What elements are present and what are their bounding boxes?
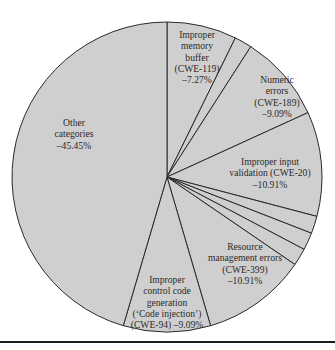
slice-label-line: categories xyxy=(55,128,94,139)
slice-label-line: (CWE-189) xyxy=(254,97,299,109)
slice-label-line: Improper xyxy=(179,29,216,40)
slice-label-line: management errors xyxy=(208,252,282,263)
slice-label-line: –7.27% xyxy=(181,74,212,85)
slice-label-line: generation xyxy=(147,297,188,308)
slice-label-line: errors xyxy=(266,85,289,96)
slice-label-line: –10.91% xyxy=(227,275,262,286)
slice-label-line: –10.91% xyxy=(252,179,287,190)
slice-label-line: memory xyxy=(181,40,213,51)
slice-label-line: buffer xyxy=(185,52,209,63)
pie-chart: Impropermemorybuffer(CWE-119)–7.27%Numer… xyxy=(0,0,335,350)
slice-label-line: Improper xyxy=(149,274,186,285)
slice-label-line: (CWE-399) xyxy=(222,264,267,276)
slice-label-line: –9.09% xyxy=(261,108,292,119)
slice-label-line: (‘Code injection’) xyxy=(133,308,202,320)
slice-label-line: validation (CWE-20) xyxy=(229,167,310,179)
slice-label-line: (CWE-119) xyxy=(175,63,220,75)
slice-label-line: Improper input xyxy=(241,156,299,167)
slice-label-line: Other xyxy=(63,117,86,128)
slice-label-line: Numeric xyxy=(260,74,294,85)
slice-label-line: control code xyxy=(143,285,191,296)
slice-label-line: Resource xyxy=(227,241,263,252)
slice-label-line: (CWE-94) –9.09% xyxy=(131,319,203,331)
slice-label-line: –45.45% xyxy=(56,140,91,151)
